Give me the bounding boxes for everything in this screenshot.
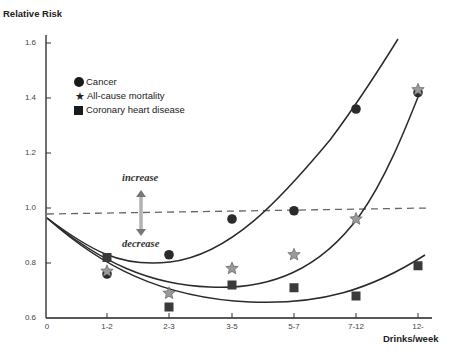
square-data-point xyxy=(165,303,174,312)
star-data-point xyxy=(163,287,175,299)
x-tick-label: 5-7 xyxy=(279,322,309,331)
legend-label: Coronary heart disease xyxy=(86,103,185,117)
circle-data-point xyxy=(227,214,237,224)
star-marker-icon: ★ xyxy=(74,89,86,103)
square-data-point xyxy=(228,281,237,290)
y-tick-label: 1.6 xyxy=(12,38,36,47)
square-data-point xyxy=(103,253,112,262)
reference-line xyxy=(47,208,428,214)
x-tick-label: 3-5 xyxy=(217,322,247,331)
x-tick-label: 2-3 xyxy=(154,322,184,331)
decrease-annotation: decrease xyxy=(122,238,159,249)
legend-label: Cancer xyxy=(86,75,117,89)
legend-label: All-cause mortality xyxy=(87,89,165,103)
x-tick-label: 12- xyxy=(403,322,433,331)
legend-item-chd: Coronary heart disease xyxy=(74,103,185,117)
square-data-point xyxy=(290,283,299,292)
y-ticks xyxy=(46,43,51,263)
y-tick-label: 0.8 xyxy=(12,258,36,267)
legend-item-cancer: Cancer xyxy=(74,75,185,89)
square-data-point xyxy=(414,261,423,270)
x-tick-label: 7-12 xyxy=(341,322,371,331)
star-data-point xyxy=(288,248,300,260)
y-tick-label: 1.0 xyxy=(12,203,36,212)
circle-marker-icon xyxy=(74,77,84,87)
x-ticks xyxy=(107,313,418,318)
increase-annotation: increase xyxy=(122,172,158,183)
square-data-point xyxy=(352,292,361,301)
legend-item-all-cause: ★ All-cause mortality xyxy=(74,89,185,103)
y-tick-label: 1.2 xyxy=(12,148,36,157)
y-tick-label: 1.4 xyxy=(12,93,36,102)
y-tick-label: 0.6 xyxy=(12,313,36,322)
legend: Cancer ★ All-cause mortality Coronary he… xyxy=(74,75,185,117)
x-axis-label: Drinks/week xyxy=(383,333,438,344)
circle-data-point xyxy=(351,104,361,114)
x-tick-label: 1-2 xyxy=(92,322,122,331)
star-data-point xyxy=(226,262,238,274)
chart-canvas xyxy=(0,0,460,356)
circle-data-point xyxy=(164,250,174,260)
cancer-fit-curve xyxy=(47,39,398,263)
x-tick-label: 0 xyxy=(32,322,62,331)
circle-data-point xyxy=(289,206,299,216)
y-axis-label: Relative Risk xyxy=(3,8,62,19)
square-marker-icon xyxy=(74,106,83,115)
